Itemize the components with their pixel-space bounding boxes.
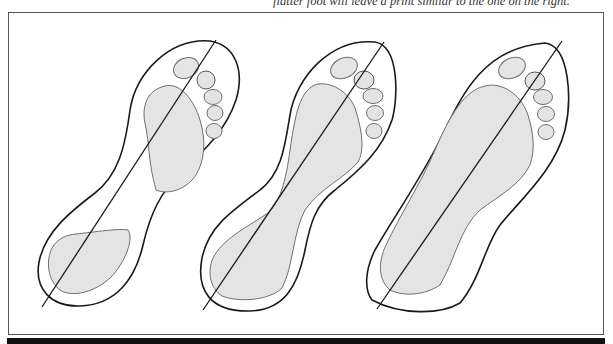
- toe-4: [367, 106, 384, 121]
- axis-line: [203, 42, 384, 310]
- bottom-bar: [7, 338, 605, 344]
- toe-2: [197, 71, 215, 89]
- contact-area: [210, 84, 362, 300]
- toe-2: [354, 71, 374, 89]
- toe-4: [538, 107, 555, 122]
- toe-5: [538, 125, 554, 140]
- heel-contact: [48, 229, 130, 293]
- forefoot-contact: [144, 85, 204, 191]
- axis-line: [377, 41, 562, 309]
- toe-3: [363, 89, 383, 104]
- footprint-high-arch: [38, 40, 239, 307]
- toe-4: [207, 106, 223, 121]
- toe-3: [204, 90, 222, 105]
- toe-5: [206, 124, 222, 139]
- toe-5: [366, 124, 382, 139]
- toe-3: [534, 90, 553, 105]
- footprint-normal-arch: [201, 42, 396, 311]
- footprint-flat-foot: [367, 41, 569, 312]
